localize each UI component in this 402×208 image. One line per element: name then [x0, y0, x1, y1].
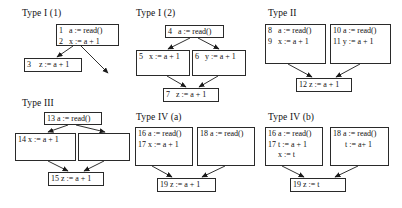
node-statements: 14 x := a + 1 [18, 135, 75, 146]
node-statements: 5 x := a + 1 [139, 52, 189, 63]
statement-line: 14 x := a + 1 [18, 135, 75, 146]
statement-line: 11 y := a + 1 [333, 37, 390, 48]
cfg-edge [335, 166, 358, 177]
cfg-node-n10: 10 a := read()11 y := a + 1 [330, 24, 391, 64]
statement-line: 16 a := read() [268, 129, 322, 140]
cfg-node-n12: 12 z := a + 1 [296, 78, 352, 92]
node-statements: 16 a := read()17 x := a + 1 [138, 129, 192, 150]
node-statements: 7 z := a + 1 [166, 90, 218, 101]
group-title-type-iii: Type III [22, 98, 54, 108]
statement-line: 17 t := a + 1 [268, 140, 322, 151]
statement-line: 8 a := read() [268, 26, 325, 37]
node-statements: 15 z := a + 1 [51, 174, 103, 185]
cfg-node-n7: 7 z := a + 1 [163, 88, 219, 102]
node-statements: 8 a := read()9 x := a + 1 [268, 26, 325, 47]
group-title-type-i-2: Type I (2) [136, 8, 175, 18]
figure-canvas: 1 a := read()2 x := a + 13 z := a + 14 a… [0, 0, 402, 208]
cfg-node-n4: 4 a := read() [165, 25, 224, 38]
node-statements: 6 y := a + 1 [195, 52, 245, 63]
statement-line: 2 x := a + 1 [59, 37, 118, 47]
statement-line: 18 a := read() [200, 129, 254, 140]
cfg-edge [202, 166, 225, 177]
statement-line: 18 a := read() [333, 129, 388, 140]
node-statements: 19 z := t [293, 180, 345, 191]
cfg-node-n3: 3 z := a + 1 [24, 58, 82, 72]
cfg-node-n19b: 19 z := t [290, 178, 346, 192]
cfg-edge [167, 76, 186, 87]
group-title-type-iv-b: Type IV (b) [268, 112, 314, 122]
cfg-edge [48, 161, 68, 171]
node-statements: 3 z := a + 1 [27, 60, 81, 71]
statement-line: x := t [268, 150, 322, 161]
cfg-node-n1: 1 a := read()2 x := a + 1 [56, 24, 119, 46]
cfg-node-n16a: 16 a := read()17 x := a + 1 [135, 127, 193, 166]
cfg-node-n14: 14 x := a + 1 [15, 133, 76, 161]
cfg-edge [84, 161, 104, 171]
cfg-edge [57, 46, 73, 57]
cfg-edge [199, 76, 218, 87]
node-statements: 18 a := read() [200, 129, 254, 140]
node-statements: 16 a := read()17 t := a + 1 x := t [268, 129, 322, 161]
statement-line: t := a+ 1 [333, 140, 388, 151]
cfg-edge [152, 166, 172, 177]
cfg-node-n16b: 16 a := read()17 t := a + 1 x := t [265, 127, 323, 166]
statement-line: 19 z := t [293, 180, 345, 191]
statement-line: 7 z := a + 1 [166, 90, 218, 101]
cfg-node-n13: 13 a := read() [44, 112, 102, 125]
group-title-type-iv-a: Type IV (a) [136, 112, 182, 122]
cfg-edge [288, 64, 312, 77]
cfg-node-n18a: 18 a := read() [197, 127, 255, 166]
cfg-edge [168, 38, 190, 49]
cfg-node-n15: 15 z := a + 1 [48, 172, 104, 186]
cfg-node-n18b: 18 a := read() t := a+ 1 [330, 127, 389, 166]
statement-line: 1 a := read() [59, 26, 118, 37]
node-statements: 10 a := read()11 y := a + 1 [333, 26, 390, 47]
cfg-edge [282, 166, 304, 177]
cfg-edge [198, 38, 219, 49]
cfg-edge [336, 64, 360, 77]
statement-line: 15 z := a + 1 [51, 174, 103, 185]
statement-line: 10 a := read() [333, 26, 390, 37]
statement-line: 16 a := read() [138, 129, 192, 140]
node-statements: 1 a := read()2 x := a + 1 [59, 26, 118, 46]
statement-line: 17 x := a + 1 [138, 140, 192, 151]
cfg-edge [48, 125, 68, 132]
node-statements: 13 a := read() [47, 114, 101, 125]
group-title-type-i-1: Type I (1) [22, 8, 61, 18]
statement-line: 12 z := a + 1 [299, 80, 351, 91]
statement-line: 9 x := a + 1 [268, 37, 325, 48]
statement-line: 4 a := read() [168, 27, 223, 38]
statement-line: 6 y := a + 1 [195, 52, 245, 63]
cfg-node-n-empty [78, 133, 130, 161]
group-title-type-ii: Type II [268, 8, 297, 18]
node-statements: 19 z := a + 1 [160, 180, 215, 191]
node-statements: 4 a := read() [168, 27, 223, 38]
statement-line: 13 a := read() [47, 114, 101, 125]
cfg-node-n19a: 19 z := a + 1 [157, 178, 216, 192]
cfg-edge [81, 46, 108, 73]
cfg-node-n8: 8 a := read()9 x := a + 1 [265, 24, 326, 64]
statement-line: 19 z := a + 1 [160, 180, 215, 191]
node-statements: 18 a := read() t := a+ 1 [333, 129, 388, 150]
cfg-node-n5: 5 x := a + 1 [136, 50, 190, 76]
statement-line: 3 z := a + 1 [27, 60, 81, 71]
cfg-edge [76, 125, 105, 132]
statement-line: 5 x := a + 1 [139, 52, 189, 63]
node-statements: 12 z := a + 1 [299, 80, 351, 91]
cfg-node-n6: 6 y := a + 1 [192, 50, 246, 76]
